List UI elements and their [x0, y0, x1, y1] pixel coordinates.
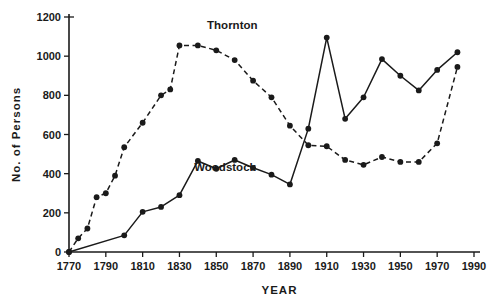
data-point [397, 159, 403, 165]
data-point [140, 120, 146, 126]
data-point [455, 64, 461, 70]
y-tick-label-800: 800 [43, 89, 61, 101]
x-tick-label-1770: 1770 [57, 260, 81, 272]
data-point [158, 204, 164, 210]
y-tick-label-600: 600 [43, 129, 61, 141]
y-tick-label-200: 200 [43, 207, 61, 219]
data-point [342, 116, 348, 122]
data-point [287, 182, 293, 188]
x-axis-title: YEAR [262, 284, 298, 296]
data-point [85, 226, 91, 232]
data-point [361, 94, 367, 100]
data-point [195, 43, 201, 49]
data-point [379, 56, 385, 62]
data-point [324, 143, 330, 149]
x-tick-label-1890: 1890 [278, 260, 302, 272]
data-point [103, 190, 109, 196]
data-point [121, 232, 127, 238]
data-point [269, 94, 275, 100]
data-point [213, 47, 219, 53]
data-point [379, 154, 385, 160]
data-point [158, 92, 164, 98]
x-tick-label-1810: 1810 [130, 260, 154, 272]
data-point [75, 235, 81, 241]
data-point [94, 194, 100, 200]
data-point [416, 88, 422, 94]
x-tick-label-1830: 1830 [167, 260, 191, 272]
data-point [167, 87, 173, 93]
x-tick-label-1850: 1850 [204, 260, 228, 272]
y-tick-label-1000: 1000 [37, 50, 61, 62]
data-point [342, 157, 348, 163]
data-point [250, 78, 256, 84]
population-line-chart: 020040060080010001200 177017901810183018… [0, 0, 501, 299]
data-point [434, 67, 440, 73]
x-tick-label-1790: 1790 [94, 260, 118, 272]
data-point [232, 57, 238, 63]
data-point [416, 159, 422, 165]
y-tick-label-1200: 1200 [37, 11, 61, 23]
y-axis-title: No. of Persons [10, 87, 22, 182]
x-tick-label-1910: 1910 [314, 260, 338, 272]
x-tick-label-1870: 1870 [241, 260, 265, 272]
data-point [305, 126, 311, 132]
x-tick-label-1930: 1930 [351, 260, 375, 272]
y-tick-label-0: 0 [55, 246, 61, 258]
data-point [121, 144, 127, 150]
series-label-woodstock: Woodstock [194, 161, 256, 173]
chart-canvas: 020040060080010001200 177017901810183018… [0, 0, 501, 299]
data-point [177, 43, 183, 49]
x-tick-label-1970: 1970 [425, 260, 449, 272]
data-point [140, 209, 146, 215]
data-point [177, 192, 183, 198]
data-point [455, 49, 461, 55]
data-point [397, 73, 403, 79]
data-point [305, 142, 311, 148]
x-tick-label-1950: 1950 [388, 260, 412, 272]
y-tick-label-400: 400 [43, 168, 61, 180]
x-tick-label-1990: 1990 [462, 260, 486, 272]
chart-background [0, 0, 501, 299]
series-label-thornton: Thornton [207, 19, 257, 31]
data-point [324, 35, 330, 41]
data-point [269, 172, 275, 178]
data-point [361, 162, 367, 168]
data-point [434, 140, 440, 146]
data-point [287, 123, 293, 129]
data-point [66, 249, 72, 255]
data-point [112, 173, 118, 179]
